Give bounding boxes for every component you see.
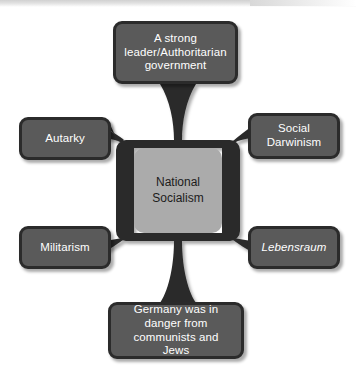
node-autarky[interactable]: Autarky — [19, 117, 111, 160]
node-bottom-line-2: danger from — [115, 317, 237, 331]
node-top-line-1: A strong — [120, 32, 230, 46]
node-center-line-1: National — [156, 175, 200, 189]
node-social-darwinism-line-1: Social — [263, 122, 326, 136]
node-top-label: A strong leader/Authoritarian government — [116, 32, 234, 73]
node-social-darwinism[interactable]: Social Darwinism — [248, 113, 340, 159]
node-top[interactable]: A strong leader/Authoritarian government — [113, 21, 238, 84]
node-top-line-2: leader/Authoritarian — [120, 46, 230, 60]
node-autarky-label: Autarky — [37, 132, 93, 146]
node-lebensraum-label: Lebensraum — [254, 241, 335, 255]
node-center-label: National Socialism — [134, 175, 222, 206]
node-militarism[interactable]: Militarism — [19, 226, 111, 269]
node-center-national-socialism[interactable]: National Socialism — [134, 148, 222, 233]
node-social-darwinism-label: Social Darwinism — [259, 122, 330, 149]
node-lebensraum[interactable]: Lebensraum — [248, 226, 340, 269]
node-bottom-line-1: Germany was in — [115, 303, 237, 317]
node-militarism-line-1: Militarism — [36, 241, 94, 255]
node-center-line-2: Socialism — [152, 191, 203, 205]
node-top-line-3: government — [120, 59, 230, 73]
node-bottom[interactable]: Germany was in danger from communists an… — [108, 302, 244, 359]
mind-map-diagram: A strong leader/Authoritarian government… — [0, 0, 356, 370]
node-bottom-label: Germany was in danger from communists an… — [111, 303, 241, 357]
node-bottom-line-3: communists and Jews — [115, 331, 237, 358]
node-social-darwinism-line-2: Darwinism — [263, 136, 326, 150]
node-lebensraum-line-1: Lebensraum — [258, 241, 331, 255]
node-autarky-line-1: Autarky — [41, 132, 89, 146]
node-militarism-label: Militarism — [32, 241, 98, 255]
